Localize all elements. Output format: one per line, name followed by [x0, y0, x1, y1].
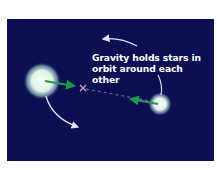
caption: Gravity holds stars in orbit around each…: [92, 52, 212, 85]
binary-star-diagram: [0, 0, 217, 170]
caption-line-2: orbit around each other: [92, 63, 212, 85]
orbit-arrow-top: [103, 39, 137, 46]
small-star: [148, 92, 172, 116]
large-star: [23, 62, 61, 100]
orbit-arrow-bottom: [46, 96, 78, 127]
separation-line: [86, 89, 150, 101]
caption-line-1: Gravity holds stars in: [92, 52, 212, 63]
center-of-mass-icon: [80, 85, 86, 91]
